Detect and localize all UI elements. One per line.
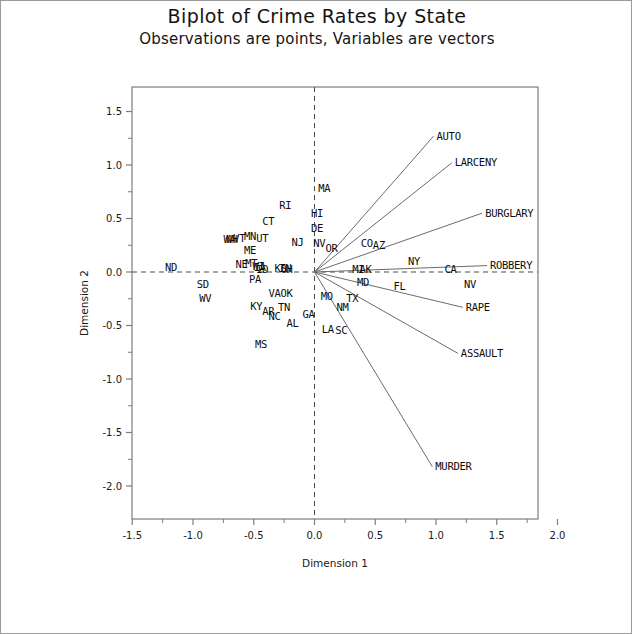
observation-label: ND bbox=[165, 261, 177, 273]
x-axis-tick-label: -1.0 bbox=[183, 530, 203, 541]
observation-label: AL bbox=[287, 317, 299, 329]
x-axis-tick-label: 1.5 bbox=[489, 530, 505, 541]
y-axis-tick-label: 0.5 bbox=[106, 213, 122, 224]
observation-label: CA bbox=[445, 263, 458, 275]
x-axis-tick-label: 0.0 bbox=[307, 530, 323, 541]
observation-label: TN bbox=[278, 301, 290, 313]
variable-label: LARCENY bbox=[455, 156, 498, 168]
observation-label: NY bbox=[408, 255, 421, 267]
observation-label: NV bbox=[464, 278, 477, 290]
observation-label: NM bbox=[336, 301, 348, 313]
variable-label: ASSAULT bbox=[461, 347, 504, 359]
observation-label: GA bbox=[302, 308, 315, 320]
x-axis-title: Dimension 1 bbox=[302, 557, 368, 569]
observation-label: MD bbox=[357, 276, 369, 288]
y-axis-tick-label: -1.0 bbox=[102, 374, 122, 385]
observation-label: OH bbox=[281, 263, 293, 275]
observation-label: MS bbox=[255, 338, 267, 350]
x-axis-tick-label: 2.0 bbox=[550, 530, 566, 541]
variable-vector-line bbox=[315, 163, 452, 272]
variable-vector-line bbox=[315, 266, 488, 272]
variable-label: BURGLARY bbox=[485, 207, 534, 219]
observation-label: SC bbox=[335, 324, 347, 336]
observation-label: DE bbox=[311, 222, 323, 234]
x-axis-tick-label: -1.5 bbox=[122, 530, 142, 541]
y-axis-tick-label: -2.0 bbox=[102, 481, 122, 492]
observation-label: HI bbox=[311, 207, 323, 219]
observation-label: ME bbox=[244, 244, 256, 256]
y-axis-title: Dimension 2 bbox=[78, 270, 90, 336]
variable-label: ROBBERY bbox=[490, 259, 533, 271]
y-axis-tick-label: 1.5 bbox=[106, 106, 122, 117]
biplot-canvas: -1.5-1.0-0.50.00.51.01.52.01.51.00.50.0-… bbox=[1, 1, 632, 634]
y-axis-tick-label: 1.0 bbox=[106, 160, 122, 171]
biplot-page: Biplot of Crime Rates by State Observati… bbox=[0, 0, 632, 634]
y-axis-tick-label: 0.0 bbox=[106, 267, 122, 278]
observation-label: RI bbox=[279, 199, 291, 211]
x-axis-tick-label: -0.5 bbox=[244, 530, 264, 541]
observation-label: CO bbox=[361, 237, 373, 249]
x-axis-tick-label: 1.0 bbox=[428, 530, 444, 541]
observation-label: KY bbox=[250, 300, 263, 312]
observation-label: AK bbox=[360, 263, 373, 275]
observation-label: NV bbox=[313, 237, 326, 249]
observation-label: UT bbox=[256, 232, 269, 244]
observation-label: CT bbox=[262, 215, 275, 227]
observation-label: NJ bbox=[291, 236, 303, 248]
y-axis-tick-label: -0.5 bbox=[102, 320, 122, 331]
observation-label: VA bbox=[268, 287, 281, 299]
x-axis-tick-label: 0.5 bbox=[367, 530, 383, 541]
observation-label: SD bbox=[197, 278, 209, 290]
observation-label: AZ bbox=[373, 239, 385, 251]
observation-label: MO bbox=[321, 290, 333, 302]
variable-label: RAPE bbox=[466, 301, 490, 313]
observation-label: WV bbox=[199, 292, 212, 304]
observation-label: LA bbox=[322, 323, 335, 335]
observation-label: FL bbox=[394, 280, 406, 292]
variable-label: MURDER bbox=[435, 460, 472, 472]
variable-label: AUTO bbox=[437, 130, 461, 142]
observation-label: MN bbox=[244, 230, 256, 242]
observation-label: ID bbox=[256, 263, 268, 275]
y-axis-tick-label: -1.5 bbox=[102, 427, 122, 438]
observation-label: OK bbox=[281, 287, 294, 299]
observation-label: OR bbox=[325, 242, 338, 254]
observation-label: MA bbox=[318, 182, 331, 194]
